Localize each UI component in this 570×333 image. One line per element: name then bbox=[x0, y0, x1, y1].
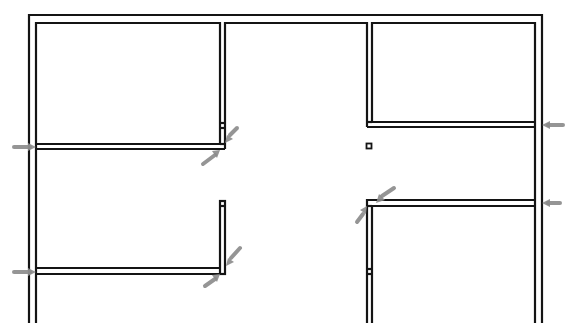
section-marker-right-upper bbox=[542, 121, 563, 129]
floor-plan-drawing bbox=[0, 0, 570, 333]
section-marker-left-lower bbox=[14, 268, 36, 276]
room-bottom-left-walls bbox=[36, 201, 225, 274]
exterior-walls bbox=[29, 15, 542, 323]
column-square bbox=[367, 144, 372, 149]
room-bottom-right-walls bbox=[367, 200, 535, 323]
section-marker-left-upper bbox=[14, 143, 36, 151]
section-marker-right-lower bbox=[542, 199, 560, 207]
room-top-left-walls bbox=[36, 123, 225, 149]
room-top-right-walls bbox=[367, 122, 535, 127]
